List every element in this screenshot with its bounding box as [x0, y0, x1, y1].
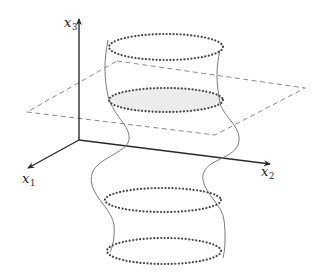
x2-axis: [79, 140, 270, 164]
surface-right-curve: [203, 50, 239, 258]
bottom-cross-section: [107, 238, 221, 264]
svg-text:x: x: [64, 15, 72, 30]
x3-label: x 3: [64, 15, 77, 32]
lower-cross-section: [105, 188, 221, 212]
svg-text:2: 2: [269, 171, 274, 181]
svg-text:x: x: [261, 164, 269, 179]
svg-text:3: 3: [72, 22, 77, 32]
top-cross-section: [109, 34, 223, 60]
x1-label: x 1: [22, 171, 35, 188]
svg-text:1: 1: [30, 178, 35, 188]
svg-text:x: x: [22, 171, 30, 186]
diagram-canvas: x 3 x 1 x 2: [0, 0, 323, 279]
x1-axis: [28, 140, 79, 168]
x2-label: x 2: [261, 164, 274, 181]
